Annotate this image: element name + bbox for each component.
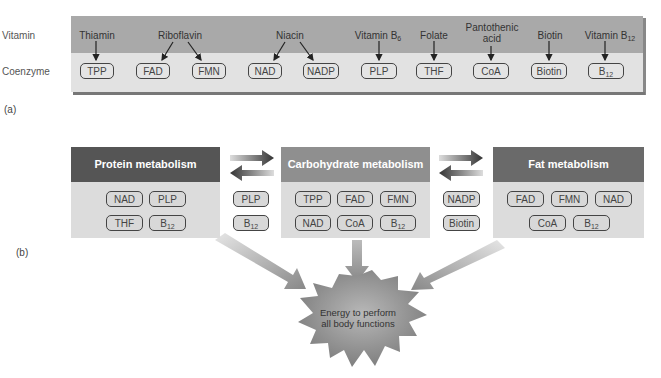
shared-coenzyme-plp: PLP [233,191,269,207]
protein-metabolism-header: Protein metabolism [71,147,220,182]
b12-letter: B [160,218,167,229]
fat-coenzyme-b12: B12 [573,215,610,231]
shared-coenzyme-nadp: NADP [443,191,480,207]
protein-coenzyme-nad: NAD [106,191,143,207]
b12-sub: 12 [591,223,599,230]
fat-coenzyme-fad: FAD [507,191,544,207]
carb-coenzyme-fad: FAD [337,191,373,207]
fat-coenzyme-fmn: FMN [551,191,588,207]
shared-coenzyme-b12: B12 [233,215,269,231]
protein-coenzyme-b12: B12 [149,215,186,231]
shared-coenzyme-biotin: Biotin [443,215,480,231]
b12-sub: 12 [397,223,405,230]
carb-coenzyme-b12: B12 [380,215,416,231]
carbohydrate-metabolism-header: Carbohydrate metabolism [281,147,430,182]
fat-coenzyme-nad: NAD [595,191,632,207]
protein-coenzyme-thf: THF [106,215,143,231]
b12-sub: 12 [250,223,258,230]
energy-label: Energy to perform all body functions [310,307,406,329]
carb-coenzyme-coa: CoA [337,215,373,231]
fat-coenzyme-coa: CoA [529,215,566,231]
carb-coenzyme-tpp: TPP [295,191,331,207]
carb-coenzyme-nad: NAD [295,215,331,231]
energy-label-line1: Energy to perform [310,307,406,318]
protein-carb-exchange-arrows [228,150,276,182]
fat-metabolism-header: Fat metabolism [493,147,644,182]
carb-fat-exchange-arrows [437,150,485,182]
protein-metabolism-body [71,182,220,238]
energy-label-line2: all body functions [310,318,406,329]
carb-coenzyme-fmn: FMN [380,191,416,207]
b12-sub: 12 [167,223,175,230]
protein-coenzyme-plp: PLP [149,191,186,207]
b12-letter: B [584,218,591,229]
